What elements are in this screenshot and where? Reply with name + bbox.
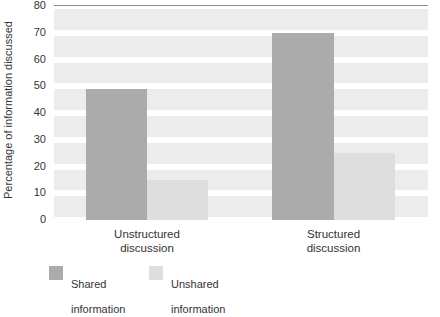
grid-band [54, 36, 428, 57]
legend-label-unshared: Unshared information [171, 265, 225, 317]
y-tick-label: 50 [14, 80, 46, 91]
y-tick-label: 0 [14, 214, 46, 225]
grid-band [54, 9, 428, 30]
bar-structured-unshared [334, 153, 395, 220]
y-tick-label: 70 [14, 27, 46, 38]
y-tick-label: 30 [14, 134, 46, 145]
y-tick-label: 20 [14, 161, 46, 172]
plot-area [54, 5, 428, 220]
legend-item-unshared: Unshared information [149, 265, 225, 317]
y-axis-tick-labels: 80 70 60 50 40 30 20 10 0 [14, 0, 50, 226]
y-tick-label: 60 [14, 54, 46, 65]
legend-label-shared: Shared information [71, 265, 125, 317]
legend-label-line2: information [171, 303, 225, 316]
x-axis-label-unstructured: Unstructured discussion [86, 227, 208, 255]
y-axis-title-text: Percentage of information discussed [2, 21, 14, 199]
x-axis-label-structured: Structured discussion [272, 227, 395, 255]
bar-unstructured-shared [86, 89, 147, 220]
legend-label-line2: information [71, 303, 125, 316]
y-tick-label: 80 [14, 0, 46, 11]
y-tick-label: 40 [14, 107, 46, 118]
bar-structured-shared [272, 33, 334, 220]
legend-swatch-shared-icon [49, 266, 63, 280]
x-axis-label-line2: discussion [272, 241, 395, 255]
y-tick-label: 10 [14, 187, 46, 198]
legend-label-line1: Shared [71, 278, 125, 291]
legend-item-shared: Shared information [49, 265, 125, 317]
legend-label-line1: Unshared [171, 278, 225, 291]
x-axis-label-line2: discussion [86, 241, 208, 255]
x-axis-label-line1: Unstructured [86, 227, 208, 241]
grid-band [54, 63, 428, 84]
legend-swatch-unshared-icon [149, 266, 163, 280]
x-axis-label-line1: Structured [272, 227, 395, 241]
bar-unstructured-unshared [147, 180, 208, 220]
